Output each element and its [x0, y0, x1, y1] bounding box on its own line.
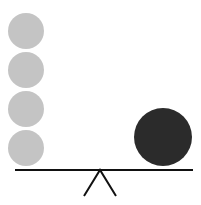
- heavy-dark-ball: [134, 108, 192, 166]
- light-ball-2: [8, 52, 44, 88]
- light-ball-3: [8, 91, 44, 127]
- light-ball-4: [8, 130, 44, 166]
- seesaw-diagram: [0, 0, 201, 205]
- light-ball-1: [8, 13, 44, 49]
